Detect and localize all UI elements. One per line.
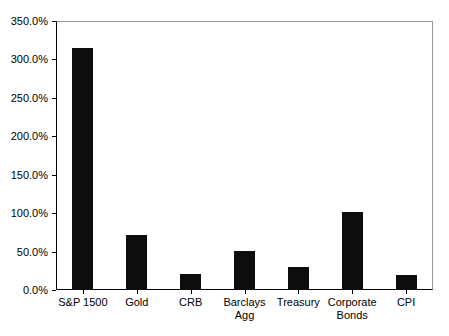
x-axis-tick-mark xyxy=(298,290,299,294)
bar xyxy=(288,267,309,290)
bar-chart: 0.0%50.0%100.0%150.0%200.0%250.0%300.0%3… xyxy=(0,0,449,336)
x-axis-tick-mark xyxy=(352,290,353,294)
bars-layer xyxy=(0,0,449,336)
x-axis-tick-label: CRB xyxy=(179,296,202,309)
x-axis-tick-label: Treasury xyxy=(277,296,320,309)
x-axis-tick-label: CPI xyxy=(397,296,415,309)
x-axis-tick-mark xyxy=(137,290,138,294)
bar xyxy=(234,251,255,290)
bar xyxy=(72,48,93,290)
x-axis-tick-mark xyxy=(406,290,407,294)
x-axis-tick-label: S&P 1500 xyxy=(58,296,107,309)
x-axis-tick-mark xyxy=(191,290,192,294)
x-axis-tick-mark xyxy=(83,290,84,294)
bar xyxy=(180,274,201,290)
bar xyxy=(126,235,147,290)
bar xyxy=(396,275,417,290)
x-axis-tick-label: Corporate Bonds xyxy=(328,296,377,322)
x-axis-tick-mark xyxy=(245,290,246,294)
x-axis-tick-label: Gold xyxy=(125,296,148,309)
bar xyxy=(342,212,363,290)
x-axis-tick-label: Barclays Agg xyxy=(223,296,265,322)
x-axis: S&P 1500GoldCRBBarclays AggTreasuryCorpo… xyxy=(0,292,449,336)
